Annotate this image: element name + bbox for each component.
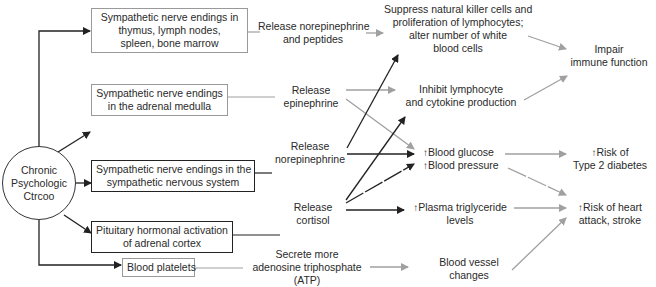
action-release-epinephrine: Release epinephrine bbox=[276, 84, 346, 110]
label-line: Release bbox=[276, 84, 346, 97]
label-line: in the adrenal medulla bbox=[96, 100, 223, 113]
chronic-stress-node: Chronic Psychologic Ctrcoo bbox=[2, 146, 76, 220]
label-line: Type 2 diabetes bbox=[566, 159, 654, 172]
label-line: Secrete more bbox=[243, 248, 371, 261]
label-line: Blood platelets bbox=[127, 261, 190, 274]
label-line: epinephrine bbox=[276, 97, 346, 110]
label-line: proliferation of lymphocytes; bbox=[384, 16, 532, 29]
label-line: adenosine triphosphate bbox=[243, 261, 371, 274]
effect-blood-glucose: ↑Blood glucose bbox=[423, 146, 494, 159]
label-line: (ATP) bbox=[243, 274, 371, 287]
label-line: of adrenal cortex bbox=[96, 237, 228, 250]
box-sympathetic-system: Sympathetic nerve endings in the sympath… bbox=[91, 160, 255, 192]
label-text: Risk of bbox=[596, 146, 628, 158]
label-line: Pituitary hormonal activation bbox=[96, 224, 228, 237]
label-line: Suppress natural killer cells and bbox=[384, 3, 532, 16]
label-text: Blood glucose bbox=[428, 146, 494, 158]
action-release-cortisol: Release cortisol bbox=[280, 201, 346, 227]
effect-inhibit-lymphocyte: Inhibit lymphocyte and cytokine producti… bbox=[398, 83, 524, 109]
label-text: Risk of heart bbox=[583, 201, 642, 213]
label-line: attack, stroke bbox=[568, 214, 652, 227]
label-line: Psychologic bbox=[11, 177, 67, 190]
label-line: changes bbox=[426, 269, 512, 282]
box-adrenal-cortex: Pituitary hormonal activation of adrenal… bbox=[91, 221, 233, 253]
label-line: Sympathetic nerve endings bbox=[96, 87, 223, 100]
label-line: thymus, lymph nodes, bbox=[96, 24, 243, 37]
label-text: Blood pressure bbox=[428, 159, 499, 171]
label-line: alter number of white bbox=[384, 29, 532, 42]
label-text: Plasma triglyceride bbox=[418, 201, 507, 213]
action-release-norepinephrine-peptides: Release norepinephrine and peptides bbox=[258, 20, 368, 46]
label-line: Release bbox=[272, 140, 348, 153]
effect-blood-vessel-changes: Blood vessel changes bbox=[426, 256, 512, 282]
outcome-risk-diabetes: ↑Risk of Type 2 diabetes bbox=[566, 146, 654, 172]
label-line: cortisol bbox=[280, 214, 346, 227]
label-line: Release norepinephrine bbox=[258, 20, 368, 33]
action-release-norepinephrine: Release norepinephrine bbox=[272, 140, 348, 166]
effect-blood-pressure: ↑Blood pressure bbox=[423, 159, 499, 172]
label-line: Ctrcoo bbox=[11, 190, 67, 203]
outcome-impair-immune: Impair immune function bbox=[565, 43, 653, 69]
label-line: norepinephrine bbox=[272, 153, 348, 166]
outcome-risk-heart-attack: ↑Risk of heart attack, stroke bbox=[568, 201, 652, 227]
box-blood-platelets: Blood platelets bbox=[122, 258, 195, 277]
label-line: and peptides bbox=[258, 33, 368, 46]
label-line: immune function bbox=[565, 56, 653, 69]
label-line: Sympathetic nerve endings in bbox=[96, 11, 243, 24]
label-line: sympathetic nervous system bbox=[96, 176, 250, 189]
action-secrete-atp: Secrete more adenosine triphosphate (ATP… bbox=[243, 248, 371, 287]
label-line: and cytokine production bbox=[398, 96, 524, 109]
box-thymus-nerves: Sympathetic nerve endings in thymus, lym… bbox=[91, 8, 248, 53]
effect-suppress-nk-cells: Suppress natural killer cells and prolif… bbox=[384, 3, 532, 55]
label-line: Release bbox=[280, 201, 346, 214]
box-adrenal-medulla: Sympathetic nerve endings in the adrenal… bbox=[91, 84, 228, 116]
label-line: spleen, bone marrow bbox=[96, 37, 243, 50]
effect-plasma-triglyceride: ↑Plasma triglyceride levels bbox=[406, 201, 514, 227]
label-line: Sympathetic nerve endings in the bbox=[96, 163, 250, 176]
label-line: Blood vessel bbox=[426, 256, 512, 269]
label-line: Impair bbox=[565, 43, 653, 56]
label-line: Chronic bbox=[11, 164, 67, 177]
label-line: blood cells bbox=[384, 42, 532, 55]
label-line: Inhibit lymphocyte bbox=[398, 83, 524, 96]
label-line: levels bbox=[406, 214, 514, 227]
